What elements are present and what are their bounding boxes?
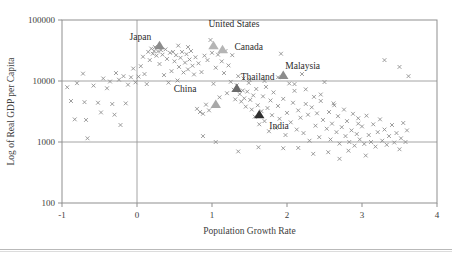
data-point <box>119 123 123 127</box>
data-point <box>358 138 362 142</box>
data-point <box>269 99 273 103</box>
data-point <box>124 101 128 105</box>
data-point <box>264 85 268 89</box>
x-tick-label: 1 <box>210 210 215 220</box>
data-point <box>395 131 399 135</box>
data-point <box>65 85 69 89</box>
data-point <box>326 150 330 154</box>
data-point <box>145 82 149 86</box>
data-point <box>344 134 348 138</box>
data-point <box>401 121 405 125</box>
chart-figure: 100000100001000100-101234Population Grow… <box>0 0 452 260</box>
data-point <box>263 119 267 123</box>
data-point <box>122 74 126 78</box>
data-point <box>285 111 289 115</box>
data-point <box>207 108 211 112</box>
data-point <box>81 72 85 76</box>
data-point <box>317 135 321 139</box>
country-marker-china <box>211 100 221 109</box>
data-point <box>365 114 369 118</box>
country-marker-india <box>254 110 264 119</box>
data-point <box>189 49 193 53</box>
data-point <box>86 136 90 140</box>
data-point <box>299 116 303 120</box>
data-point <box>356 122 360 126</box>
data-point <box>141 55 145 59</box>
data-point <box>188 58 192 62</box>
data-point <box>376 130 380 134</box>
data-point <box>222 71 226 75</box>
data-point <box>270 113 274 117</box>
data-point <box>238 92 242 96</box>
data-point <box>245 90 249 94</box>
data-point <box>101 77 105 81</box>
data-point <box>296 108 300 112</box>
data-point <box>194 55 198 59</box>
footer-divider-bottom <box>0 251 452 252</box>
data-point <box>319 99 323 103</box>
y-tick-label: 100000 <box>28 15 56 25</box>
x-tick-label: 3 <box>360 210 365 220</box>
data-point <box>353 144 357 148</box>
data-point <box>108 80 112 84</box>
data-point <box>364 154 368 158</box>
data-point <box>336 114 340 118</box>
data-point <box>362 142 366 146</box>
data-point <box>272 91 276 95</box>
data-point <box>325 127 329 131</box>
data-point <box>284 133 288 137</box>
data-point <box>398 65 402 69</box>
data-point <box>345 119 349 123</box>
data-point <box>230 53 234 57</box>
data-point <box>367 133 371 137</box>
x-tick-label: 2 <box>285 210 290 220</box>
data-point <box>227 64 231 68</box>
x-axis-title: Population Growth Rate <box>203 226 295 236</box>
data-point <box>209 38 213 42</box>
country-marker-malaysia <box>278 70 288 79</box>
data-point <box>399 136 403 140</box>
data-point <box>173 59 177 63</box>
data-point <box>374 145 378 149</box>
country-label-malaysia: Malaysia <box>285 61 321 71</box>
y-tick-label: 1000 <box>37 137 56 147</box>
x-tick-label: -1 <box>58 210 66 220</box>
data-point <box>92 84 96 88</box>
data-point <box>319 93 323 97</box>
data-point <box>293 82 297 86</box>
scatter-plot: 100000100001000100-101234Population Grow… <box>0 0 452 260</box>
data-point <box>183 61 187 65</box>
data-point <box>155 54 159 58</box>
data-point <box>405 128 409 132</box>
data-point <box>220 59 224 63</box>
data-point <box>278 117 282 121</box>
data-point <box>356 116 360 120</box>
data-point <box>176 79 180 83</box>
data-point <box>191 64 195 68</box>
data-point <box>244 105 248 109</box>
data-point <box>261 94 265 98</box>
data-point <box>295 128 299 132</box>
data-point <box>83 100 87 104</box>
data-point <box>342 108 346 112</box>
data-point <box>279 52 283 56</box>
data-point <box>327 110 331 114</box>
data-point <box>168 51 172 55</box>
data-point <box>304 102 308 106</box>
data-point <box>162 73 166 77</box>
country-label-japan: Japan <box>130 32 152 42</box>
data-point <box>84 118 88 122</box>
data-point <box>289 120 293 124</box>
country-label-thailand: Thailand <box>241 72 275 82</box>
data-point <box>281 146 285 150</box>
data-point <box>110 102 114 106</box>
country-label-united-states: United States <box>209 19 260 29</box>
data-point <box>321 118 325 122</box>
data-point <box>250 108 254 112</box>
data-point <box>229 80 233 84</box>
data-point <box>158 62 162 66</box>
data-point <box>214 66 218 70</box>
data-point <box>148 58 152 62</box>
data-point <box>390 123 394 127</box>
data-point <box>340 125 344 129</box>
